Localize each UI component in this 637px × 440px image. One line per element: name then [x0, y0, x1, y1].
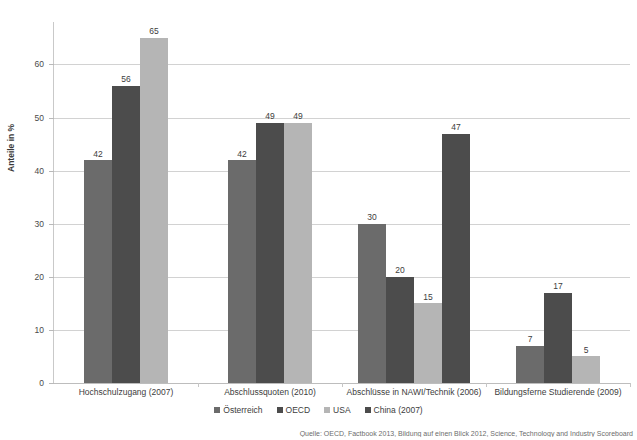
legend-item[interactable]: Österreich — [214, 406, 262, 415]
bar-value-label: 15 — [423, 293, 432, 302]
bar-value-label: 7 — [528, 335, 533, 344]
y-tick-label-0: 0 — [0, 379, 44, 388]
legend-item[interactable]: USA — [324, 406, 350, 415]
x-axis-separator — [198, 383, 199, 387]
bar-value-label: 49 — [293, 112, 302, 121]
bar[interactable]: 7 — [516, 346, 544, 383]
y-tick-label-50: 50 — [0, 114, 44, 123]
bar-value-label: 65 — [149, 27, 158, 36]
legend-label: USA — [333, 406, 350, 415]
bar[interactable]: 47 — [442, 134, 470, 384]
legend-item[interactable]: OECD — [277, 406, 311, 415]
y-tick-label-60: 60 — [0, 60, 44, 69]
bar-group: 30201547 — [342, 22, 486, 383]
chart-legend: ÖsterreichOECDUSAChina (2007) — [0, 406, 637, 415]
source-note: Quelle: OECD, Factbook 2013, Bildung auf… — [0, 430, 637, 437]
bar[interactable]: 30 — [358, 224, 386, 383]
x-axis-category-label: Bildungsferne Studierende (2009) — [486, 388, 630, 397]
bar-group: 7175 — [486, 22, 630, 383]
chart-page: Anteile in % 0102030405060 4256654249493… — [0, 0, 637, 440]
legend-swatch-icon — [324, 407, 330, 413]
bar[interactable]: 56 — [112, 86, 140, 383]
plot-area: 425665424949302015477175 — [54, 22, 630, 383]
bar[interactable]: 5 — [572, 356, 600, 383]
bar-value-label: 5 — [584, 346, 589, 355]
legend-label: China (2007) — [374, 406, 423, 415]
bar[interactable]: 65 — [140, 38, 168, 383]
bar[interactable]: 49 — [284, 123, 312, 383]
legend-item[interactable]: China (2007) — [365, 406, 423, 415]
bar-value-label: 56 — [121, 75, 130, 84]
x-axis-category-label: Hochschulzugang (2007) — [54, 388, 198, 397]
legend-swatch-icon — [277, 407, 283, 413]
bar-value-label: 47 — [451, 123, 460, 132]
bar[interactable]: 15 — [414, 303, 442, 383]
bar[interactable]: 49 — [256, 123, 284, 383]
legend-swatch-icon — [365, 407, 371, 413]
bar-value-label: 20 — [395, 266, 404, 275]
bar-value-label: 30 — [367, 213, 376, 222]
x-axis-separator — [342, 383, 343, 387]
y-tick-label-20: 20 — [0, 273, 44, 282]
bar-value-label: 42 — [93, 150, 102, 159]
bar-value-label: 42 — [237, 150, 246, 159]
y-tick-label-10: 10 — [0, 326, 44, 335]
bar[interactable]: 17 — [544, 293, 572, 383]
bar[interactable]: 20 — [386, 277, 414, 383]
x-axis-category-label: Abschlüsse in NAWI/Technik (2006) — [342, 388, 486, 397]
legend-swatch-icon — [214, 407, 220, 413]
bar-group: 425665 — [54, 22, 198, 383]
bar-value-label: 17 — [553, 282, 562, 291]
bar[interactable]: 42 — [84, 160, 112, 383]
bar-group: 424949 — [198, 22, 342, 383]
bar-value-label: 49 — [265, 112, 274, 121]
bar[interactable]: 42 — [228, 160, 256, 383]
legend-label: Österreich — [223, 406, 262, 415]
legend-label: OECD — [286, 406, 311, 415]
x-axis-separator — [486, 383, 487, 387]
y-tick-label-40: 40 — [0, 167, 44, 176]
y-tick-label-30: 30 — [0, 220, 44, 229]
x-axis-separator — [630, 383, 631, 387]
x-axis-category-label: Abschlussquoten (2010) — [198, 388, 342, 397]
